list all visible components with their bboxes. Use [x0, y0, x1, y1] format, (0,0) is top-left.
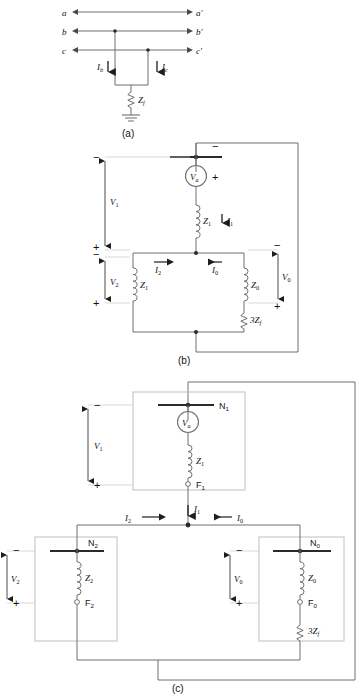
source-polarity-plus-b: +	[212, 171, 218, 183]
canvas-background	[0, 0, 363, 698]
v2-polarity-minus-c: −	[13, 544, 19, 556]
v2-polarity-plus-c: +	[13, 597, 19, 609]
junction-dot-c	[146, 48, 150, 52]
circuit-diagram-svg: a a' b b' c c' Ib Ic Zf (a) Va − + Z1 I1	[0, 0, 363, 698]
v0-polarity-plus-b: +	[274, 300, 280, 312]
junction-dot-b	[113, 29, 117, 33]
fault-terminal-f2-c	[75, 600, 80, 605]
fault-terminal-f0-c	[298, 600, 303, 605]
figure-container: a a' b b' c c' Ib Ic Zf (a) Va − + Z1 I1	[0, 0, 363, 698]
v1-polarity-minus-c: −	[94, 399, 100, 411]
v2-polarity-plus-b: +	[93, 297, 99, 309]
v1-polarity-plus-c: +	[94, 479, 100, 491]
v2-polarity-minus-b: −	[93, 248, 99, 260]
terminal-label-c: c	[62, 46, 66, 56]
source-polarity-minus-b: −	[212, 140, 218, 152]
caption-b: (b)	[178, 355, 190, 366]
caption-a: (a)	[122, 128, 134, 139]
v1-polarity-minus-b: −	[93, 151, 99, 163]
v0-polarity-plus-c: +	[236, 597, 242, 609]
terminal-label-b: b	[62, 27, 67, 37]
middle-node-dot-b	[194, 251, 198, 255]
terminal-label-b-prime: b'	[196, 27, 204, 37]
v0-polarity-minus-c: −	[236, 544, 242, 556]
bottom-node-dot-b	[194, 330, 198, 334]
terminal-label-a: a	[62, 8, 67, 18]
junction-node-dot-c	[186, 523, 191, 528]
fault-terminal-f1-c	[186, 482, 191, 487]
caption-c: (c)	[172, 683, 184, 694]
terminal-label-a-prime: a'	[196, 8, 204, 18]
v0-polarity-minus-b: −	[274, 239, 280, 251]
